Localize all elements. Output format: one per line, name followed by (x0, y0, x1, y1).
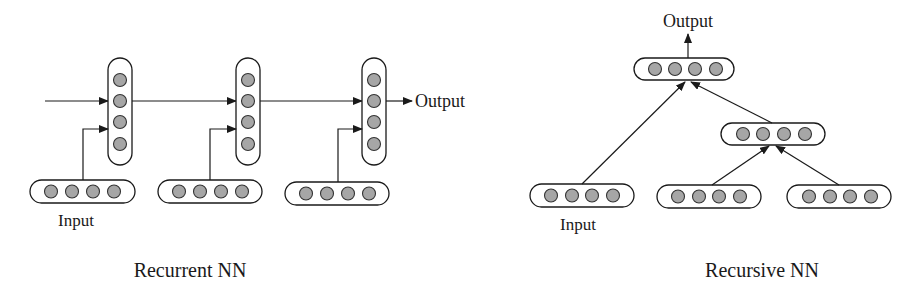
input-node (342, 187, 355, 200)
root-node (689, 63, 702, 76)
leaf-node (586, 189, 599, 202)
leaf-node (713, 190, 726, 203)
input-node (108, 185, 121, 198)
hidden-node (368, 95, 381, 108)
input-arrow (338, 129, 362, 182)
leaf-node (672, 190, 685, 203)
recursive-leaf-1 (530, 184, 634, 207)
leaf-node (734, 190, 747, 203)
hidden-node (114, 138, 127, 151)
recurrent-caption: Recurrent NN (134, 259, 247, 281)
leaf-node (607, 189, 620, 202)
input-arrow (210, 129, 236, 180)
leaf-node (566, 189, 579, 202)
root-node (649, 63, 662, 76)
leaf-node (545, 189, 558, 202)
recurrent-nn-diagram: Output Input Recurrent NN (30, 58, 465, 281)
leaf-node (865, 190, 878, 203)
leaf1-to-root-arrow (582, 82, 685, 184)
leaf-node (824, 190, 837, 203)
leaf3-to-middle-arrow (776, 146, 839, 185)
input-node (363, 187, 376, 200)
recursive-input-label: Input (560, 215, 596, 234)
input-node (194, 185, 207, 198)
hidden-node (368, 116, 381, 129)
hidden-node (368, 138, 381, 151)
root-node (669, 63, 682, 76)
recurrent-input-label: Input (58, 211, 94, 230)
leaf2-to-middle-arrow (712, 146, 769, 185)
hidden-node (242, 116, 255, 129)
middle-node (737, 128, 750, 141)
recurrent-step-3 (285, 58, 389, 205)
middle-to-root-arrow (691, 82, 772, 123)
hidden-node (368, 74, 381, 87)
input-node (173, 185, 186, 198)
recursive-nn-diagram: Output (530, 11, 891, 281)
leaf-node (693, 190, 706, 203)
input-node (215, 185, 228, 198)
leaf-node (844, 190, 857, 203)
recurrent-output-label: Output (415, 91, 465, 111)
input-node (300, 187, 313, 200)
recursive-caption: Recursive NN (705, 259, 819, 281)
hidden-node (114, 116, 127, 129)
input-node (321, 187, 334, 200)
hidden-node (242, 74, 255, 87)
diagram-canvas: Output Input Recurrent NN Output (0, 0, 919, 298)
recurrent-step-1 (30, 58, 135, 203)
input-node (236, 185, 249, 198)
recurrent-step-2 (158, 58, 262, 203)
hidden-node (114, 95, 127, 108)
recursive-root-layer (634, 58, 734, 80)
middle-node (799, 128, 812, 141)
hidden-node (114, 74, 127, 87)
hidden-node (242, 95, 255, 108)
recursive-output-label: Output (663, 11, 713, 31)
input-arrow (83, 129, 108, 180)
leaf-node (803, 190, 816, 203)
root-node (710, 63, 723, 76)
recursive-leaf-3 (787, 185, 891, 208)
input-node (45, 185, 58, 198)
middle-node (757, 128, 770, 141)
recursive-leaf-2 (657, 185, 761, 208)
input-node (66, 185, 79, 198)
input-node (87, 185, 100, 198)
hidden-node (242, 138, 255, 151)
middle-node (778, 128, 791, 141)
recursive-middle-layer (721, 123, 825, 145)
